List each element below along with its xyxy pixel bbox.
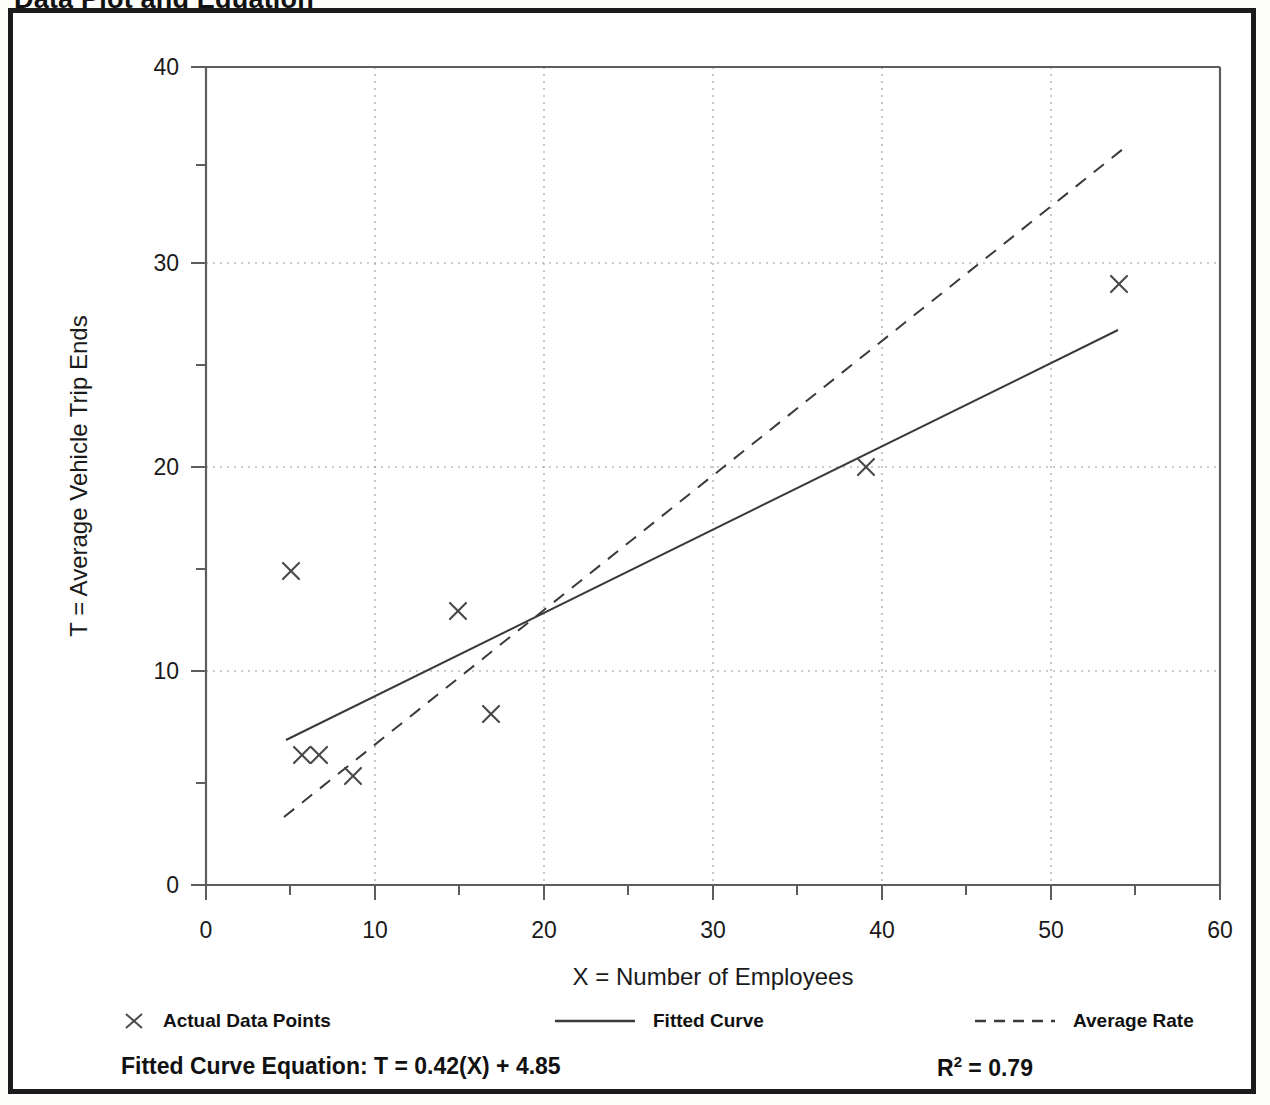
x-marker-icon [119, 1011, 149, 1031]
y-tick-label: 40 [153, 54, 179, 80]
x-tick-label: 60 [1207, 917, 1233, 943]
legend-item-fitted-curve: Fitted Curve [553, 1003, 764, 1039]
equation-row: Fitted Curve Equation: T = 0.42(X) + 4.8… [13, 1053, 1269, 1093]
page-root: Data Plot and Equation [0, 0, 1270, 1105]
legend-item-actual-data-points: Actual Data Points [119, 1003, 331, 1039]
y-tick-label: 10 [153, 658, 179, 684]
r-squared-value: R2 = 0.79 [937, 1053, 1033, 1082]
x-tick-label: 40 [869, 917, 895, 943]
r-squared-number: = 0.79 [962, 1055, 1033, 1081]
chart-legend: Actual Data Points Fitted Curve Average … [13, 1003, 1269, 1039]
r-squared-base: R [937, 1055, 954, 1081]
y-tick-label: 0 [166, 872, 179, 898]
x-axis-title: X = Number of Employees [573, 963, 854, 990]
chart-frame: 0 10 20 30 40 0 10 20 30 40 50 60 T = Av… [8, 8, 1256, 1094]
x-tick-label: 0 [200, 917, 213, 943]
legend-item-average-rate: Average Rate [973, 1003, 1194, 1039]
x-tick-label: 10 [362, 917, 388, 943]
y-tick-label: 20 [153, 454, 179, 480]
x-tick-label: 50 [1038, 917, 1064, 943]
y-tick-label: 30 [153, 250, 179, 276]
legend-label: Average Rate [1073, 1010, 1194, 1032]
solid-line-icon [553, 1011, 637, 1031]
dashed-line-icon [973, 1011, 1057, 1031]
fitted-curve-equation: Fitted Curve Equation: T = 0.42(X) + 4.8… [121, 1053, 561, 1080]
x-tick-label: 30 [700, 917, 726, 943]
legend-label: Fitted Curve [653, 1010, 764, 1032]
r-squared-exponent: 2 [954, 1053, 962, 1070]
x-tick-label: 20 [531, 917, 557, 943]
legend-label: Actual Data Points [163, 1010, 331, 1032]
y-axis-title: T = Average Vehicle Trip Ends [65, 315, 92, 636]
data-plot: 0 10 20 30 40 0 10 20 30 40 50 60 T = Av… [13, 13, 1251, 1089]
